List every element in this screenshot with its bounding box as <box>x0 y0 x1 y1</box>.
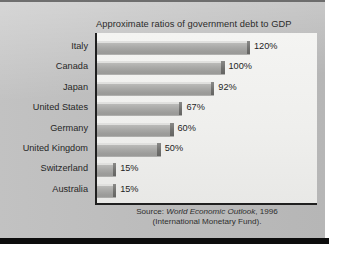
bottom-black-bar <box>0 238 329 244</box>
bar-end-cap <box>221 61 225 74</box>
source-caption: Source: World Economic Outlook, 1996 (In… <box>95 207 319 227</box>
category-label: Japan <box>0 82 88 93</box>
bar-value-label: 92% <box>218 82 236 93</box>
source-publication: World Economic Outlook <box>166 207 255 216</box>
bar-row: Canada100% <box>0 57 341 77</box>
bar-value-label: 15% <box>120 163 138 174</box>
bar-value-label: 50% <box>165 143 183 154</box>
bar-end-cap <box>247 41 251 54</box>
category-label: Canada <box>0 61 88 72</box>
bar-value-label: 67% <box>186 102 204 113</box>
bar-value-label: 120% <box>254 41 278 52</box>
bar-top-bevel <box>97 123 174 125</box>
bar-shadow <box>97 74 225 75</box>
bar-end-cap <box>113 163 117 176</box>
bar-row: Germany60% <box>0 119 341 139</box>
bar-shadow <box>97 197 116 198</box>
bar-row: Japan92% <box>0 78 341 98</box>
bar-top-bevel <box>97 61 225 63</box>
bar-row: United States67% <box>0 98 341 118</box>
bar <box>97 102 182 115</box>
bar-value-label: 60% <box>178 123 196 134</box>
bar <box>97 143 161 156</box>
bar-top-bevel <box>97 102 182 104</box>
bar-shadow <box>97 95 214 96</box>
bar-shadow <box>97 115 182 116</box>
bar-value-label: 15% <box>120 184 138 195</box>
source-year: , 1996 <box>255 207 278 216</box>
bar-end-cap <box>211 82 215 95</box>
bar-shadow <box>97 54 250 55</box>
source-organization: (International Monetary Fund). <box>153 217 262 226</box>
bar <box>97 82 214 95</box>
category-label: Italy <box>0 41 88 52</box>
bar-top-bevel <box>97 82 214 84</box>
bar-value-label: 100% <box>229 61 253 72</box>
bar-row: Australia15% <box>0 180 341 200</box>
category-label: Australia <box>0 184 88 195</box>
category-label: United States <box>0 102 88 113</box>
bar-shadow <box>97 176 116 177</box>
top-rule-divider <box>0 0 325 2</box>
bar-top-bevel <box>97 41 250 43</box>
category-label: United Kingdom <box>0 143 88 154</box>
bar <box>97 184 116 197</box>
bar-end-cap <box>179 102 183 115</box>
bar-rows-container: Italy120%Canada100%Japan92%United States… <box>0 33 341 204</box>
bar-row: United Kingdom50% <box>0 139 341 159</box>
bar-end-cap <box>157 143 161 156</box>
bar <box>97 41 250 54</box>
chart-title: Approximate ratios of government debt to… <box>96 19 324 30</box>
figure-root: Approximate ratios of government debt to… <box>0 0 341 258</box>
bar-row: Switzerland15% <box>0 159 341 179</box>
category-label: Switzerland <box>0 163 88 174</box>
category-label: Germany <box>0 123 88 134</box>
bar-end-cap <box>113 184 117 197</box>
bar <box>97 123 174 136</box>
bar-end-cap <box>170 123 174 136</box>
bar-row: Italy120% <box>0 37 341 57</box>
bar-shadow <box>97 156 161 157</box>
bar <box>97 163 116 176</box>
source-prefix: Source: <box>136 207 166 216</box>
bar <box>97 61 225 74</box>
bar-shadow <box>97 136 174 137</box>
bar-top-bevel <box>97 143 161 145</box>
